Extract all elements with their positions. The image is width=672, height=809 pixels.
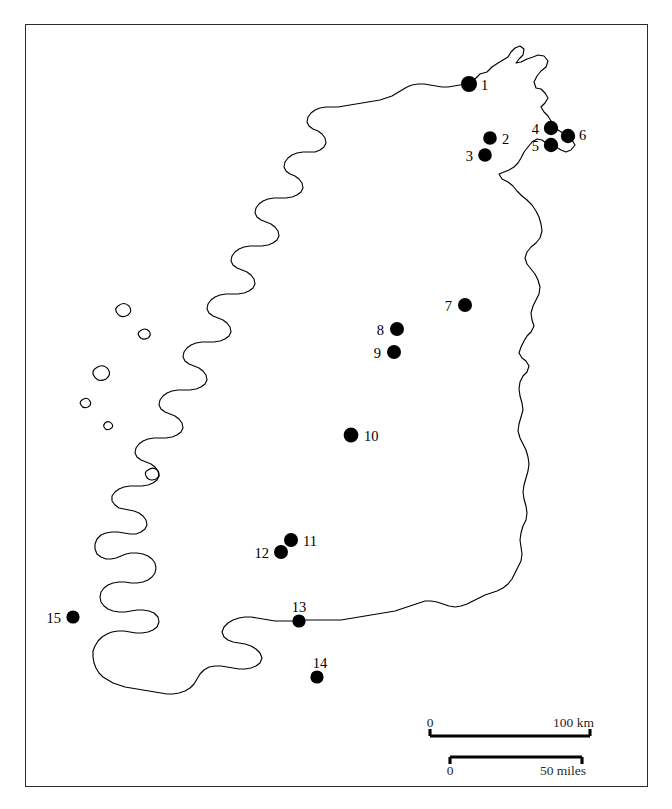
ireland-distribution-map: 123456789101112131415 0100 km050 miles bbox=[0, 0, 672, 809]
scale-start-label-kilometres: 0 bbox=[427, 715, 434, 730]
scale-end-label-miles: 50 miles bbox=[540, 763, 586, 778]
scale-end-label-kilometres: 100 km bbox=[553, 715, 594, 730]
scale-start-label-miles: 0 bbox=[447, 763, 454, 778]
scale-bars-layer: 0100 km050 miles bbox=[0, 0, 672, 809]
